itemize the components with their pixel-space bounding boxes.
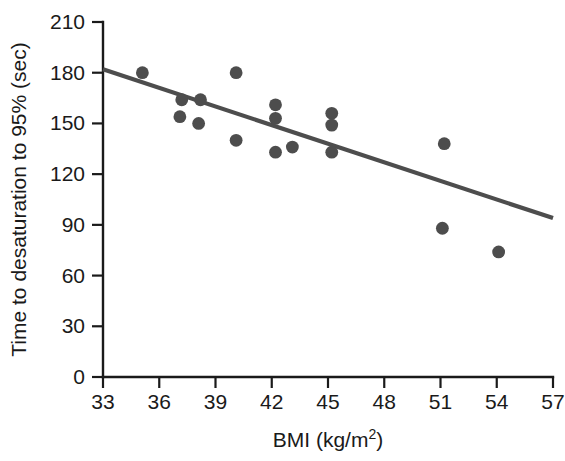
data-point bbox=[230, 66, 243, 79]
data-point bbox=[173, 110, 186, 123]
data-point bbox=[436, 222, 449, 235]
x-tick-label: 45 bbox=[316, 390, 339, 413]
data-point bbox=[492, 246, 505, 259]
data-point bbox=[325, 107, 338, 120]
data-point bbox=[269, 146, 282, 159]
scatter-plot-figure: 0306090120150180210333639424548515457BMI… bbox=[0, 0, 565, 461]
y-tick-label: 90 bbox=[62, 213, 85, 236]
y-tick-label: 180 bbox=[50, 61, 85, 84]
x-tick-label: 33 bbox=[91, 390, 114, 413]
x-tick-label: 39 bbox=[204, 390, 227, 413]
data-point bbox=[325, 146, 338, 159]
y-axis-title: Time to desaturation to 95% (sec) bbox=[7, 42, 30, 356]
x-tick-label: 51 bbox=[429, 390, 452, 413]
regression-line bbox=[103, 69, 553, 218]
data-point bbox=[286, 141, 299, 154]
data-point bbox=[269, 112, 282, 125]
x-axis-title: BMI (kg/m2) bbox=[273, 426, 383, 451]
x-tick-label: 36 bbox=[148, 390, 171, 413]
data-point bbox=[136, 66, 149, 79]
y-tick-label: 120 bbox=[50, 162, 85, 185]
data-point bbox=[269, 98, 282, 111]
x-tick-label: 48 bbox=[373, 390, 396, 413]
y-tick-label: 0 bbox=[73, 365, 85, 388]
x-tick-label: 57 bbox=[541, 390, 564, 413]
y-tick-label: 150 bbox=[50, 111, 85, 134]
data-point bbox=[230, 134, 243, 147]
chart-canvas: 0306090120150180210333639424548515457BMI… bbox=[0, 0, 565, 461]
data-point bbox=[192, 117, 205, 130]
data-point bbox=[175, 93, 188, 106]
x-tick-label: 54 bbox=[485, 390, 509, 413]
y-tick-label: 60 bbox=[62, 264, 85, 287]
data-point bbox=[194, 93, 207, 106]
x-tick-label: 42 bbox=[260, 390, 283, 413]
data-point bbox=[325, 119, 338, 132]
y-tick-label: 210 bbox=[50, 10, 85, 33]
y-tick-label: 30 bbox=[62, 314, 85, 337]
data-point bbox=[438, 137, 451, 150]
